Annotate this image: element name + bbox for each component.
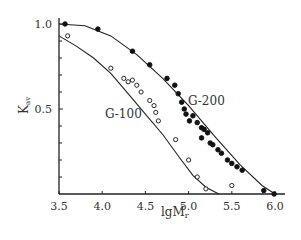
data-point (176, 91, 181, 96)
data-point (202, 127, 207, 132)
data-point (219, 151, 224, 156)
data-point (147, 63, 152, 68)
data-point (96, 27, 101, 32)
data-point (272, 192, 277, 197)
data-point (122, 76, 126, 80)
y-axis-label-sub: av (24, 97, 32, 105)
g100-label: G-100 (105, 107, 142, 121)
data-point (261, 188, 266, 193)
y-tick-label: 1.0 (35, 18, 53, 31)
x-tick-label: 5.5 (223, 200, 241, 213)
data-point (230, 183, 234, 187)
data-point (66, 34, 70, 38)
x-tick-label: 3.5 (50, 200, 68, 213)
data-point (174, 138, 178, 142)
data-points (63, 22, 277, 197)
data-point (199, 136, 204, 141)
data-point (156, 119, 160, 123)
data-point (63, 22, 68, 27)
data-point (191, 114, 196, 119)
data-point (210, 142, 215, 147)
data-point (195, 175, 199, 179)
data-point (179, 100, 184, 105)
data-point (187, 158, 191, 162)
x-axis-label: lgMr (161, 205, 189, 220)
data-point (230, 161, 235, 166)
y-axis-label: Kav (17, 97, 32, 114)
data-point (126, 80, 130, 84)
data-point (240, 168, 245, 173)
data-point (204, 187, 208, 191)
x-tick-label: 6.0 (266, 200, 284, 213)
data-point (225, 158, 230, 163)
chart: 3.54.04.55.05.56.00.51.0 G-200 G-100 lgM… (0, 0, 301, 240)
data-point (154, 110, 158, 114)
data-point (152, 104, 156, 108)
data-point (109, 66, 113, 70)
data-point (172, 83, 177, 88)
data-point (195, 120, 200, 125)
data-point (130, 49, 135, 54)
x-axis-label-sub: r (185, 211, 189, 220)
data-point (139, 90, 143, 94)
data-point (130, 78, 134, 82)
axes (59, 18, 285, 194)
ticks: 3.54.04.55.05.56.00.51.0 (35, 18, 284, 213)
y-tick-label: 0.5 (35, 103, 53, 116)
g200-label: G-200 (188, 94, 225, 108)
x-tick-label: 4.5 (137, 200, 155, 213)
data-point (135, 83, 139, 87)
x-axis-label-main: lgM (161, 205, 185, 219)
data-point (235, 165, 240, 170)
data-point (165, 76, 170, 81)
data-point (182, 107, 187, 112)
x-tick-label: 4.0 (93, 200, 111, 213)
data-point (187, 119, 192, 124)
data-point (148, 98, 152, 102)
data-point (184, 112, 189, 117)
